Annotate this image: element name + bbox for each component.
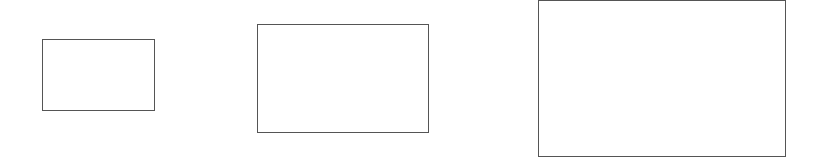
rectangle-large <box>538 0 786 157</box>
rectangle-small <box>42 39 155 111</box>
rectangle-medium <box>257 24 429 133</box>
